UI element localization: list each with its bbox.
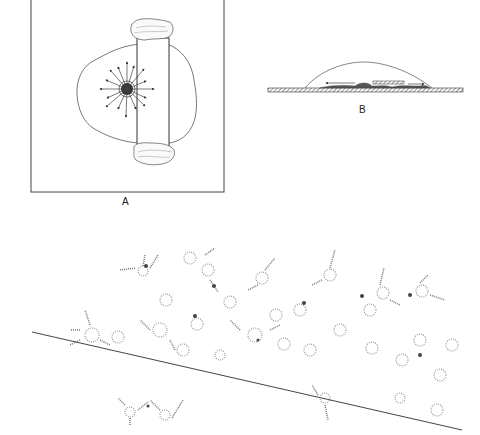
panel-c bbox=[32, 248, 462, 430]
panel-a bbox=[31, 0, 224, 192]
hatched-bar bbox=[373, 81, 404, 84]
panel-a-frame bbox=[31, 0, 224, 192]
diagonal-line bbox=[32, 332, 462, 430]
figure-canvas bbox=[0, 0, 480, 435]
substrate bbox=[268, 88, 463, 92]
cell-network bbox=[85, 252, 458, 420]
panel-a-label: A bbox=[122, 196, 129, 207]
tissue-mass-top bbox=[131, 19, 173, 40]
panel-b bbox=[268, 62, 463, 92]
dense-cell-clusters bbox=[144, 264, 422, 408]
panel-b-label: B bbox=[359, 104, 366, 115]
tissue-strip bbox=[137, 38, 169, 148]
tissue-mass-bottom bbox=[134, 143, 175, 165]
